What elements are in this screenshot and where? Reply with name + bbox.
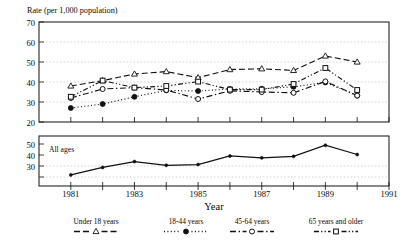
top-plot-frame [39,22,389,122]
bottom-ytick-30: 30 [26,162,35,172]
series-point-all-ages-1985 [197,163,200,166]
series-point-under-18-years-1984 [163,69,169,74]
series-point-all-ages-1986 [228,155,231,158]
top-ytick-40: 40 [26,78,35,88]
series-point-45-64-years-1989 [323,79,328,84]
series-point-18-44-years-1985 [196,89,201,94]
series-point-65-years-and-older-1990 [355,88,360,93]
all-ages-label: All ages [49,145,74,154]
series-point-all-ages-1987 [260,156,263,159]
series-line-18-44-years [71,82,357,108]
series-point-65-years-and-older-1988 [291,82,296,87]
series-point-65-years-and-older-1981 [68,94,73,99]
x-axis-title: Year [204,201,224,212]
series-point-all-ages-1988 [292,155,295,158]
top-ytick-60: 60 [26,38,35,48]
series-point-18-44-years-1983 [132,94,137,99]
bottom-plot-frame [39,136,389,186]
series-point-all-ages-1983 [133,160,136,163]
top-panel: Rate (per 1,000 population) 70 60 [26,6,389,128]
series-point-45-64-years-1988 [291,90,296,95]
legend-marker-0 [93,228,99,233]
bottom-panel: 50 40 30 All ages [26,136,389,190]
bottom-series-group [69,144,358,177]
top-ytick-50: 50 [26,58,35,68]
series-point-all-ages-1989 [324,144,327,147]
legend-label-2: 45-64 years [235,217,270,226]
series-point-65-years-and-older-1982 [100,78,105,83]
series-line-65-years-and-older [71,68,357,97]
series-point-all-ages-1990 [356,153,359,156]
series-point-18-44-years-1982 [100,102,105,107]
y-axis-title: Rate (per 1,000 population) [27,6,118,15]
top-gridlines [39,42,389,102]
top-x-ticks [71,117,389,122]
legend-label-3: 65 years and older [309,217,364,226]
series-point-65-years-and-older-1987 [259,87,264,92]
series-point-18-44-years-1981 [68,106,73,111]
series-point-all-ages-1984 [165,164,168,167]
legend-marker-3 [334,229,339,234]
series-point-under-18-years-1989 [322,53,328,58]
xtick-label-1985: 1985 [189,189,206,199]
chart-figure: Rate (per 1,000 population) 70 60 [0,0,402,252]
series-point-all-ages-1982 [101,166,104,169]
series-line-all-ages [71,145,357,175]
xtick-label-1987: 1987 [253,189,271,199]
bottom-y-axis: 50 40 30 [26,140,44,178]
series-line-under-18-years [71,56,357,86]
top-ytick-30: 30 [26,98,35,108]
series-point-all-ages-1981 [69,173,72,176]
series-point-65-years-and-older-1989 [323,66,328,71]
top-ytick-70: 70 [26,18,35,28]
legend-marker-1 [184,229,189,234]
series-point-65-years-and-older-1984 [164,84,169,89]
bottom-ytick-50: 50 [26,140,35,150]
bottom-gridlines [39,166,389,177]
series-point-65-years-and-older-1986 [228,87,233,92]
legend-label-0: Under 18 years [73,217,118,226]
xtick-label-1991: 1991 [380,189,397,199]
series-point-45-64-years-1982 [100,87,105,92]
legend-label-1: 18-44 years [169,217,204,226]
series-point-65-years-and-older-1985 [196,79,201,84]
rate-by-age-line-chart: Rate (per 1,000 population) 70 60 [0,0,402,252]
series-point-45-64-years-1990 [355,93,360,98]
top-y-axis: 70 60 50 40 30 20 [26,18,44,128]
chart-legend: Under 18 years18-44 years45-64 years65 y… [73,217,363,234]
xtick-label-1981: 1981 [62,189,79,199]
legend-marker-2 [250,229,255,234]
series-point-45-64-years-1985 [196,97,201,102]
bottom-ytick-40: 40 [26,151,35,161]
series-point-65-years-and-older-1983 [132,85,137,90]
top-ytick-20: 20 [26,118,35,128]
x-axis-labels: 198119831985198719891991 [62,189,397,199]
xtick-label-1983: 1983 [126,189,143,199]
xtick-label-1989: 1989 [317,189,334,199]
